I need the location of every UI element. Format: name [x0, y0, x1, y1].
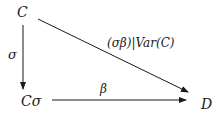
edge-label-beta: β [100, 83, 107, 95]
edge-label-composite: (σβ)|Var(C) [107, 37, 175, 49]
edge-label-sigma: σ [8, 48, 17, 61]
node-C: C [17, 5, 28, 19]
node-D: D [201, 97, 212, 111]
arrow-composite [38, 19, 188, 92]
node-Csigma: Cσ [21, 94, 41, 108]
